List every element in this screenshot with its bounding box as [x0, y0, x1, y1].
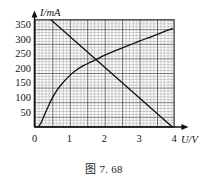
y-tick-200: 200: [15, 63, 31, 74]
figure-caption: 图 7. 68: [0, 160, 208, 176]
x-tick-0: 0: [32, 133, 37, 144]
iv-characteristic-plot: 50 100 150 200 250 300 350 0 1 2 3 4 I/m…: [0, 0, 208, 186]
y-tick-250: 250: [15, 48, 31, 59]
x-tick-1: 1: [67, 133, 72, 144]
y-tick-350: 350: [15, 19, 31, 30]
y-axis-arrowhead: [32, 11, 38, 18]
x-axis-label: U/V: [181, 134, 200, 145]
y-axis-label: I/mA: [39, 7, 61, 18]
x-tick-4: 4: [171, 133, 177, 144]
x-tick-3: 3: [137, 133, 142, 144]
figure-container: 50 100 150 200 250 300 350 0 1 2 3 4 I/m…: [0, 0, 208, 186]
y-tick-150: 150: [15, 77, 31, 88]
y-tick-50: 50: [21, 107, 32, 118]
y-tick-labels: 50 100 150 200 250 300 350: [15, 19, 31, 118]
x-tick-2: 2: [102, 133, 107, 144]
x-tick-labels: 0 1 2 3 4: [32, 133, 178, 144]
y-tick-300: 300: [15, 34, 31, 45]
y-tick-100: 100: [15, 92, 31, 103]
x-axis-arrowhead: [181, 124, 188, 130]
